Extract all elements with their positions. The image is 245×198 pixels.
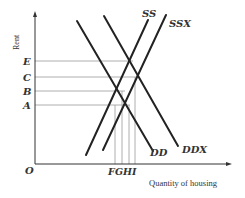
label-a: A <box>22 100 31 111</box>
y-axis-title: Rent <box>12 34 21 50</box>
label-dd: DD <box>149 147 168 158</box>
label-ddx: DDX <box>181 144 208 155</box>
x-axis-arrow-icon <box>226 162 232 166</box>
label-c: C <box>23 72 31 83</box>
label-e: E <box>22 56 31 67</box>
label-g: G <box>115 166 123 177</box>
label-b: B <box>22 86 31 97</box>
label-ss: SS <box>142 8 156 19</box>
label-i: I <box>131 166 137 177</box>
price-guides <box>35 61 136 105</box>
housing-market-diagram: SS SSX DD DDX E C B A F G H I O Rent Qua… <box>0 0 245 198</box>
curves <box>77 15 178 155</box>
label-ssx: SSX <box>169 18 192 29</box>
x-axis-title: Quantity of housing <box>149 178 218 188</box>
y-axis-arrow-icon <box>33 11 37 17</box>
label-origin: O <box>25 165 34 176</box>
